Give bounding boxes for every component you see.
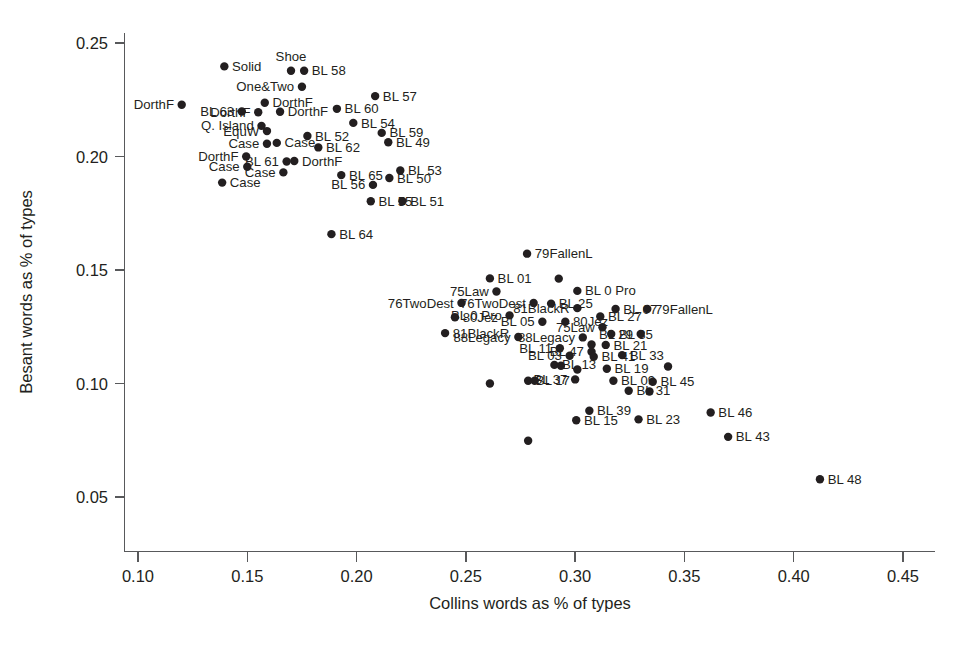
data-point [724, 433, 732, 441]
data-point [555, 274, 563, 282]
data-point-label: BL 43 [736, 429, 770, 444]
x-tick-label: 0.10 [122, 567, 154, 585]
data-point [664, 362, 672, 370]
data-point-label: 79FallenL [535, 246, 593, 261]
data-point [538, 318, 546, 326]
x-axis-tick-labels: 0.100.150.200.250.300.350.400.45 [122, 567, 919, 585]
data-point-label: Case [230, 175, 261, 190]
x-tick-label: 0.30 [559, 567, 591, 585]
y-axis-tick-labels: 0.050.100.150.200.25 [76, 34, 108, 506]
data-point-label: BL 55 [378, 194, 412, 209]
data-point-label: BL 23 [646, 412, 680, 427]
y-axis-ticks [115, 43, 125, 497]
data-point-label: BL 27 [608, 309, 642, 324]
data-point-label: BL 57 [383, 89, 417, 104]
scatter-plot-figure: 0.050.100.150.200.25 0.100.150.200.250.3… [0, 0, 953, 647]
data-point [287, 66, 295, 74]
data-point-label: BL 01 [498, 271, 532, 286]
data-point-label: Solid [232, 59, 261, 74]
data-point [290, 157, 298, 165]
data-point-label: Case [284, 135, 315, 150]
data-point-label: BL 49 [396, 135, 430, 150]
data-point [571, 375, 579, 383]
x-tick-label: 0.25 [450, 567, 482, 585]
data-point [282, 157, 290, 165]
data-point [300, 66, 308, 74]
x-tick-label: 0.40 [778, 567, 810, 585]
y-tick-label: 0.05 [76, 488, 108, 506]
data-point-label: BL 51 [410, 194, 444, 209]
data-point-label: DorthF [302, 154, 342, 169]
data-point [385, 174, 393, 182]
x-tick-label: 0.35 [668, 567, 700, 585]
data-point [486, 379, 494, 387]
data-point-label: BL 15 [584, 413, 618, 428]
data-point-label: BL 31 [636, 383, 670, 398]
data-point [602, 341, 610, 349]
x-axis-ticks [138, 552, 903, 563]
data-point [263, 140, 271, 148]
x-tick-label: 0.45 [887, 567, 919, 585]
data-point-label: One&Two [236, 79, 294, 94]
data-point-label: 79FallenL [655, 302, 713, 317]
data-point [371, 92, 379, 100]
data-point [603, 365, 611, 373]
x-tick-label: 0.15 [231, 567, 263, 585]
y-tick-label: 0.25 [76, 34, 108, 52]
data-point-label: Shoe [276, 49, 307, 64]
data-point [279, 168, 287, 176]
data-point [587, 340, 595, 348]
data-point-label: BL 03 [528, 348, 562, 363]
data-point-label: BL 0 Pro [451, 308, 502, 323]
data-point [261, 99, 269, 107]
plot-canvas: 0.050.100.150.200.25 0.100.150.200.250.3… [0, 0, 953, 647]
x-tick-label: 0.20 [341, 567, 373, 585]
data-point [333, 105, 341, 113]
data-point [523, 249, 531, 257]
data-point [816, 475, 824, 483]
data-point [486, 274, 494, 282]
x-axis-title: Collins words as % of types [429, 594, 631, 612]
data-point [254, 108, 262, 116]
data-point-label: DorthF [288, 104, 328, 119]
data-point [573, 287, 581, 295]
y-tick-label: 0.10 [76, 375, 108, 393]
y-tick-label: 0.15 [76, 261, 108, 279]
y-tick-label: 0.20 [76, 148, 108, 166]
data-point [178, 101, 186, 109]
data-point [273, 139, 281, 147]
data-point [349, 119, 357, 127]
data-point-label: BL 46 [718, 405, 752, 420]
data-point-label: 76TwoDest [388, 296, 454, 311]
data-point-label: BL 56 [331, 177, 365, 192]
data-point [367, 197, 375, 205]
data-point [314, 143, 322, 151]
data-point [298, 83, 306, 91]
data-point [220, 62, 228, 70]
data-point-label: BL 60 [345, 101, 379, 116]
data-point-label: BL 58 [312, 63, 346, 78]
data-point [327, 230, 335, 238]
data-point [441, 329, 449, 337]
data-point [609, 377, 617, 385]
data-point-label: Case [209, 159, 240, 174]
data-point-label: BL 64 [339, 227, 373, 242]
data-point-label: BL 13 [562, 357, 596, 372]
data-label-group: SolidShoeBL 58One&TwoBL 57DorthFDorthFBL… [134, 49, 862, 486]
data-point [634, 415, 642, 423]
data-point-label: BL 48 [828, 472, 862, 487]
data-point-label: BL 37 [533, 372, 567, 387]
data-point [492, 287, 500, 295]
data-point [706, 408, 714, 416]
data-point [572, 416, 580, 424]
y-axis-title: Besant words as % of types [17, 190, 35, 394]
data-point [263, 127, 271, 135]
data-point-label: BL 50 [397, 171, 431, 186]
data-point [218, 178, 226, 186]
data-point [524, 437, 532, 445]
data-point-label: 88Legacy [453, 330, 511, 345]
data-point-label: DorthF [134, 97, 174, 112]
